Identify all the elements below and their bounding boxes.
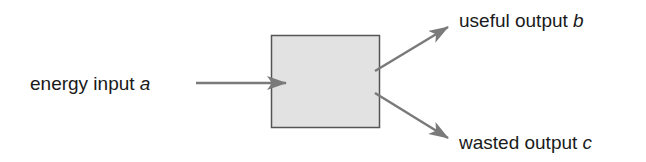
- input-text: energy input: [30, 73, 135, 94]
- process-box: [272, 36, 380, 128]
- wasted-output-label: wasted output c: [459, 133, 592, 152]
- energy-input-label: energy input a: [30, 74, 150, 93]
- input-var: a: [140, 73, 151, 94]
- wasted-output-arrow: [375, 93, 448, 138]
- useful-output-arrow: [375, 27, 448, 71]
- useful-output-label: useful output b: [459, 11, 584, 30]
- useful-text: useful output: [459, 10, 568, 31]
- wasted-text: wasted output: [459, 132, 577, 153]
- wasted-var: c: [583, 132, 593, 153]
- useful-var: b: [573, 10, 584, 31]
